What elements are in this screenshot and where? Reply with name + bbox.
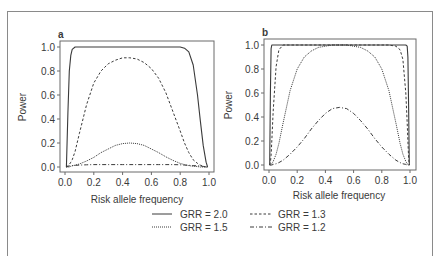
x-tick-label: 1.0 [202, 177, 216, 188]
panel-b-y-axis: 0.00.20.40.60.81.0 [245, 40, 264, 171]
y-tick-label: 0.8 [245, 64, 259, 75]
series-line-20 [66, 47, 207, 167]
panel-b-series [270, 45, 410, 165]
legend-label: GRR = 1.5 [180, 222, 228, 233]
y-tick-label: 0.4 [41, 114, 55, 125]
x-tick-label: 0.4 [318, 175, 332, 186]
legend-label: GRR = 2.0 [180, 209, 228, 220]
panel-b-x-axis-label: Risk allele frequency [293, 190, 385, 201]
x-tick-label: 0.6 [144, 177, 158, 188]
y-tick-label: 1.0 [41, 42, 55, 53]
panel-a-plot-area [60, 41, 214, 172]
panel-a-x-axis-label: Risk allele frequency [91, 194, 183, 205]
panel-b-plot-area [264, 39, 416, 170]
series-line-13 [270, 45, 410, 165]
panel-a-label: a [58, 29, 64, 40]
series-line-13 [66, 58, 207, 167]
y-tick-label: 0.2 [245, 136, 259, 147]
x-tick-label: 0.8 [375, 175, 389, 186]
panel-a-series [66, 47, 207, 167]
legend-item-grr-1-5: GRR = 1.5 [152, 222, 228, 233]
panel-a: a 0.00.20.40.60.81.0 0.00.20.40.60.81.0 … [17, 29, 216, 205]
y-tick-label: 0.8 [41, 66, 55, 77]
x-tick-label: 0.2 [87, 177, 101, 188]
y-tick-label: 0.0 [245, 160, 259, 171]
legend-item-grr-1-2: GRR = 1.2 [250, 222, 326, 233]
panel-a-y-axis-label: Power [17, 92, 28, 121]
legend-item-grr-1-3: GRR = 1.3 [250, 209, 326, 220]
panel-b-y-axis-label: Power [223, 90, 234, 119]
x-tick-label: 0.2 [290, 175, 304, 186]
legend-label: GRR = 1.3 [278, 209, 326, 220]
panel-a-x-axis: 0.00.20.40.60.81.0 [58, 172, 216, 188]
series-line-15 [270, 45, 410, 165]
series-line-15 [66, 143, 207, 167]
y-tick-label: 0.2 [41, 138, 55, 149]
series-line-20 [270, 45, 410, 165]
x-tick-label: 0.0 [262, 175, 276, 186]
x-tick-label: 0.6 [347, 175, 361, 186]
series-line-12 [270, 107, 410, 165]
panel-b-x-axis: 0.00.20.40.60.81.0 [262, 170, 417, 186]
y-tick-label: 0.4 [245, 112, 259, 123]
x-tick-label: 1.0 [403, 175, 417, 186]
panel-b: b 0.00.20.40.60.81.0 0.00.20.40.60.81.0 … [223, 27, 417, 201]
legend: GRR = 2.0 GRR = 1.3 GRR = 1.5 GRR = 1.2 [152, 209, 326, 233]
x-tick-label: 0.0 [58, 177, 72, 188]
legend-item-grr-2-0: GRR = 2.0 [152, 209, 228, 220]
panel-b-label: b [262, 27, 268, 38]
y-tick-label: 1.0 [245, 40, 259, 51]
legend-label: GRR = 1.2 [278, 222, 326, 233]
x-tick-label: 0.4 [116, 177, 130, 188]
series-line-12 [66, 165, 207, 167]
y-tick-label: 0.6 [41, 90, 55, 101]
y-tick-label: 0.0 [41, 162, 55, 173]
y-tick-label: 0.6 [245, 88, 259, 99]
panel-a-y-axis: 0.00.20.40.60.81.0 [41, 42, 60, 173]
x-tick-label: 0.8 [173, 177, 187, 188]
